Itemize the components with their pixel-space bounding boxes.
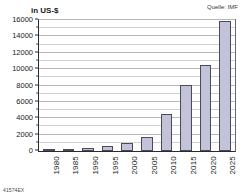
bar-1995 xyxy=(102,146,114,151)
bar-1980 xyxy=(43,149,55,151)
bar-2010 xyxy=(161,114,173,151)
x-axis-tick-label: 1995 xyxy=(111,156,120,175)
x-axis-tick-label: 1990 xyxy=(91,156,100,175)
bar-1985 xyxy=(63,149,75,151)
y-axis-tick-label: 12000 xyxy=(12,47,33,56)
x-axis-tick-label: 1985 xyxy=(71,156,80,175)
x-axis-tick-label: 2025 xyxy=(228,156,237,175)
y-axis-tick-label: 14000 xyxy=(12,31,33,40)
chart-figure: in US-$ Quelle: IMF 02000400060008000100… xyxy=(0,0,243,196)
plot-area xyxy=(38,19,236,152)
y-axis-tick-label: 8000 xyxy=(16,80,33,89)
y-axis: 0200040006000800010000120001400016000 xyxy=(0,14,38,157)
bar-2015 xyxy=(180,85,192,151)
y-axis-tick-label: 2000 xyxy=(16,129,33,138)
bars-layer xyxy=(39,20,235,151)
bar-2020 xyxy=(200,65,212,151)
x-axis-tick-label: 2005 xyxy=(150,156,159,175)
chart-source-label: Quelle: IMF xyxy=(207,4,238,10)
x-axis-tick-label: 2010 xyxy=(169,156,178,175)
y-axis-tick-label: 4000 xyxy=(16,113,33,122)
y-axis-tick-label: 16000 xyxy=(12,15,33,24)
y-axis-tick-label: 0 xyxy=(29,146,33,155)
x-axis-tick-label: 2020 xyxy=(209,156,218,175)
bar-1990 xyxy=(82,148,94,151)
bar-2000 xyxy=(121,143,133,151)
x-axis-tick-label: 2015 xyxy=(189,156,198,175)
x-axis-tick-label: 2000 xyxy=(130,156,139,175)
figure-id-code: 41574EX xyxy=(3,187,24,193)
bar-2005 xyxy=(141,137,153,151)
y-axis-tick-label: 10000 xyxy=(12,64,33,73)
bar-2025 xyxy=(219,21,231,151)
x-axis: 1980198519901995200020052010201520202025 xyxy=(38,152,236,196)
x-axis-tick-label: 1980 xyxy=(52,156,61,175)
y-axis-tick-label: 6000 xyxy=(16,96,33,105)
